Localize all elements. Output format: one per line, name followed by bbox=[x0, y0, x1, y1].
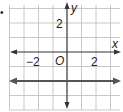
origin-label: O bbox=[55, 55, 64, 67]
x-axis-left-arrow-icon bbox=[10, 50, 17, 55]
y-axis-down-arrow-icon bbox=[65, 102, 70, 109]
y-axis-label: y bbox=[71, 2, 77, 14]
line-left-arrow-icon bbox=[9, 78, 17, 85]
line-right-arrow-icon bbox=[113, 78, 121, 85]
y-axis-up-arrow-icon bbox=[65, 2, 70, 9]
x-axis-label: x bbox=[112, 38, 118, 50]
y-tick-label-2: 2 bbox=[56, 18, 63, 30]
x-tick-label-neg2: −2 bbox=[26, 56, 40, 68]
x-tick-label-2: 2 bbox=[91, 56, 98, 68]
